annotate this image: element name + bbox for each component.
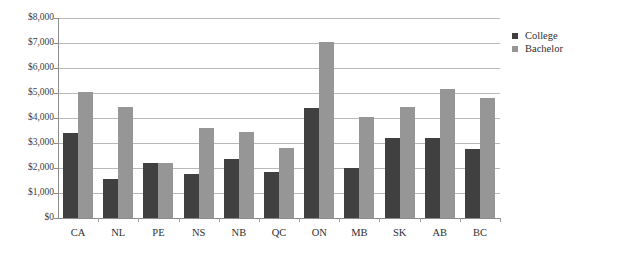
y-tick-label: $2,000 (0, 163, 54, 173)
bars-layer (58, 18, 500, 218)
x-tick-label: MB (339, 222, 379, 244)
bar-bachelor (239, 132, 254, 218)
bachelor-swatch-icon (512, 46, 518, 52)
bar-college (224, 159, 239, 218)
bar-college (465, 149, 480, 218)
y-tick-label: $4,000 (0, 113, 54, 123)
x-tick-mark (379, 218, 380, 222)
bar-group (179, 18, 219, 218)
bar-bachelor (400, 107, 415, 218)
bar-college (103, 179, 118, 218)
legend-item-label: Bachelor (525, 43, 563, 54)
y-tick-label: $8,000 (0, 13, 54, 23)
bar-group (219, 18, 259, 218)
bar-bachelor (440, 89, 455, 218)
bar-group (138, 18, 178, 218)
x-tick-mark (500, 218, 501, 222)
x-tick-mark (219, 218, 220, 222)
y-tick-label: $7,000 (0, 38, 54, 48)
bar-college (304, 108, 319, 218)
bar-college (184, 174, 199, 218)
x-tick-label: CA (58, 222, 98, 244)
bar-group (460, 18, 500, 218)
x-tick-label: NS (179, 222, 219, 244)
legend-item-college[interactable]: College (512, 30, 612, 41)
bar-college (385, 138, 400, 218)
bar-chart: $0$1,000$2,000$3,000$4,000$5,000$6,000$7… (0, 0, 621, 259)
legend-item-label: College (525, 30, 558, 41)
x-tick-mark (138, 218, 139, 222)
bar-group (380, 18, 420, 218)
bar-group (420, 18, 460, 218)
x-axis: CANLPENSNBQCONMBSKABBC (58, 222, 500, 244)
bar-bachelor (78, 92, 93, 218)
bar-college (425, 138, 440, 218)
bar-college (143, 163, 158, 218)
x-tick-mark (98, 218, 99, 222)
bar-college (264, 172, 279, 218)
y-tick-label: $1,000 (0, 188, 54, 198)
x-tick-label: BC (460, 222, 500, 244)
x-axis-line (58, 218, 500, 219)
college-swatch-icon (512, 33, 518, 39)
x-tick-mark (179, 218, 180, 222)
y-tick-label: $5,000 (0, 88, 54, 98)
x-tick-mark (339, 218, 340, 222)
bar-group (259, 18, 299, 218)
bar-group (339, 18, 379, 218)
bar-bachelor (480, 98, 495, 218)
y-tick-label: $6,000 (0, 63, 54, 73)
x-tick-mark (299, 218, 300, 222)
x-tick-label: ON (299, 222, 339, 244)
bar-bachelor (359, 117, 374, 218)
bar-college (344, 168, 359, 218)
y-axis: $0$1,000$2,000$3,000$4,000$5,000$6,000$7… (0, 0, 54, 259)
bar-group (58, 18, 98, 218)
x-tick-mark (420, 218, 421, 222)
y-tick-label: $3,000 (0, 138, 54, 148)
x-tick-label: NL (98, 222, 138, 244)
bar-group (98, 18, 138, 218)
x-tick-mark (460, 218, 461, 222)
bar-bachelor (118, 107, 133, 218)
legend-item-bachelor[interactable]: Bachelor (512, 43, 612, 54)
x-tick-label: PE (138, 222, 178, 244)
x-tick-label: AB (420, 222, 460, 244)
x-tick-label: NB (219, 222, 259, 244)
x-tick-label: QC (259, 222, 299, 244)
y-tick-label: $0 (0, 213, 54, 223)
bar-college (63, 133, 78, 218)
x-tick-label: SK (380, 222, 420, 244)
x-tick-mark (259, 218, 260, 222)
bar-group (299, 18, 339, 218)
bar-bachelor (199, 128, 214, 218)
bar-bachelor (158, 163, 173, 218)
bar-bachelor (319, 42, 334, 218)
bar-bachelor (279, 148, 294, 218)
legend: College Bachelor (512, 30, 612, 56)
